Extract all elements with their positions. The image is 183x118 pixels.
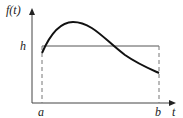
diagram-canvas — [0, 0, 183, 118]
h-label: h — [20, 40, 26, 52]
b-label: b — [155, 106, 161, 118]
y-axis-arrow-icon — [29, 8, 35, 15]
a-label: a — [38, 106, 44, 118]
curve-f — [42, 22, 159, 73]
x-axis-label: t — [172, 106, 175, 118]
y-axis-label: f(t) — [6, 4, 21, 16]
mean-value-diagram: f(t) h a b t — [0, 0, 183, 118]
